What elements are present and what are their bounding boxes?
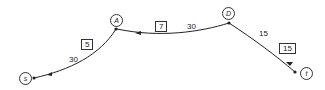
node-A: A [110, 14, 123, 27]
node-t: t [300, 67, 313, 80]
network-edges [0, 0, 325, 90]
capacity-label-D-A: 30 [187, 22, 196, 32]
flow-label-D-t: 15 [279, 43, 296, 54]
node-D: D [222, 7, 235, 20]
node-s: s [19, 72, 32, 85]
capacity-label-D-t: 15 [259, 29, 268, 39]
edge-D-A [117, 23, 229, 33]
edge-A-s [34, 29, 116, 78]
flow-label-D-A: 7 [155, 21, 167, 32]
flow-label-A-s: 5 [81, 39, 93, 50]
capacity-label-A-s: 30 [69, 55, 78, 65]
